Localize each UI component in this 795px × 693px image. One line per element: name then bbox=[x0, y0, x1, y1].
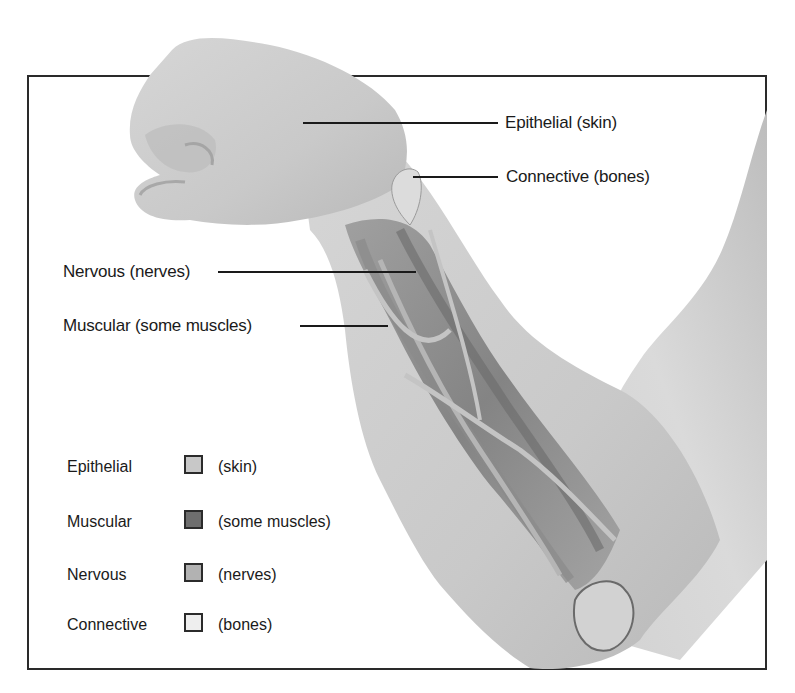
legend-name: Nervous bbox=[67, 566, 127, 584]
legend-swatch-skin bbox=[184, 455, 203, 474]
legend-desc: (some muscles) bbox=[218, 513, 331, 531]
legend-desc: (skin) bbox=[218, 458, 257, 476]
legend-swatch-muscles bbox=[184, 510, 203, 529]
legend-swatch-bones bbox=[184, 613, 203, 632]
arm-illustration bbox=[0, 0, 795, 693]
callout-connective: Connective (bones) bbox=[506, 167, 650, 187]
callout-muscular: Muscular (some muscles) bbox=[63, 316, 252, 336]
elbow-bone bbox=[574, 581, 633, 650]
legend-name: Connective bbox=[67, 616, 147, 634]
legend-desc: (nerves) bbox=[218, 566, 277, 584]
legend-swatch-nerves bbox=[184, 563, 203, 582]
legend-name: Muscular bbox=[67, 513, 132, 531]
callout-nervous: Nervous (nerves) bbox=[63, 262, 190, 282]
callout-epithelial: Epithelial (skin) bbox=[505, 113, 617, 133]
legend-name: Epithelial bbox=[67, 458, 132, 476]
legend-desc: (bones) bbox=[218, 616, 272, 634]
